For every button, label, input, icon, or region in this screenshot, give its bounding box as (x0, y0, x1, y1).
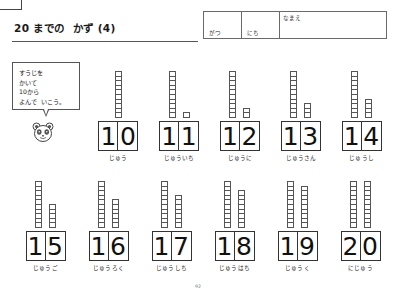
tower-group (140, 166, 203, 228)
name-field[interactable]: なまえ (280, 12, 386, 38)
numeral-digit[interactable]: 1 (279, 232, 298, 260)
tower-group (210, 56, 271, 118)
month-label: がつ (209, 29, 221, 37)
number-reading: じゅうし (349, 154, 373, 162)
number-item: 12じゅうに (210, 56, 271, 162)
block-tower (350, 182, 357, 228)
numeral-box[interactable]: 17 (152, 231, 192, 261)
numeral-digit[interactable]: 1 (153, 232, 172, 260)
numeral-digit[interactable]: 1 (179, 122, 198, 150)
number-item: 13じゅうさん (270, 56, 331, 162)
number-row-2: 15じゅうご16じゅうろく17じゅうしち18じゅうはち19じゅうく20にじゅう (14, 166, 392, 272)
tower-group (203, 166, 266, 228)
month-field[interactable]: がつ (204, 12, 242, 38)
instruction-balloon: すうじを かいて 10から よんで いこう。 (12, 62, 80, 110)
numeral-digit[interactable]: 9 (298, 232, 317, 260)
page-title: 20 までの かず (4) (14, 22, 196, 35)
block-tower (183, 113, 190, 118)
number-reading: じゅうく (285, 264, 309, 272)
unit-cube (175, 222, 182, 228)
numeral-box[interactable]: 19 (278, 231, 318, 261)
block-tower (238, 191, 245, 228)
block-tower (364, 182, 371, 228)
numeral-digit[interactable]: 1 (99, 122, 118, 150)
block-tower (169, 72, 176, 118)
panda-face-icon (31, 122, 55, 144)
numeral-box[interactable]: 20 (341, 231, 381, 261)
page-title-area: 20 までの かず (4) (14, 22, 196, 35)
instruction-text: すうじを かいて 10から よんで いこう。 (19, 68, 79, 106)
numeral-digit[interactable]: 1 (90, 232, 109, 260)
number-reading: じゅうご (33, 264, 57, 272)
numeral-box[interactable]: 11 (159, 121, 199, 151)
numeral-box[interactable]: 12 (220, 121, 260, 151)
unit-cube (243, 112, 250, 118)
block-tower (287, 182, 294, 228)
block-tower (112, 200, 119, 228)
numeral-digit[interactable]: 1 (343, 122, 362, 150)
unit-cube (224, 222, 231, 228)
name-label: なまえ (283, 14, 301, 22)
numeral-digit[interactable]: 5 (46, 232, 65, 260)
number-item: 20にじゅう (329, 166, 392, 272)
day-field[interactable]: にち (242, 12, 280, 38)
numeral-digit[interactable]: 6 (109, 232, 128, 260)
tower-group (329, 166, 392, 228)
number-item: 18じゅうはち (203, 166, 266, 272)
numeral-digit[interactable]: 2 (240, 122, 259, 150)
unit-cube (161, 222, 168, 228)
numeral-digit[interactable]: 1 (282, 122, 301, 150)
unit-cube (350, 222, 357, 228)
numeral-digit[interactable]: 2 (342, 232, 361, 260)
numeral-box[interactable]: 14 (342, 121, 382, 151)
page-number: 92 (0, 284, 396, 289)
tower-group (331, 56, 392, 118)
number-item: 14じゅうし (331, 56, 392, 162)
numeral-digit[interactable]: 1 (27, 232, 46, 260)
block-tower (365, 100, 372, 118)
numeral-digit[interactable]: 3 (301, 122, 320, 150)
tower-group (14, 166, 77, 228)
number-reading: じゅうさん (286, 154, 317, 162)
numeral-digit[interactable]: 1 (160, 122, 179, 150)
numeral-digit[interactable]: 0 (118, 122, 137, 150)
numeral-box[interactable]: 15 (26, 231, 66, 261)
number-item: 11じゅういち (149, 56, 210, 162)
block-tower (351, 72, 358, 118)
unit-cube (115, 112, 122, 118)
block-tower (229, 72, 236, 118)
unit-cube (229, 112, 236, 118)
number-reading: じゅう (109, 154, 127, 162)
number-item: 15じゅうご (14, 166, 77, 272)
block-tower (35, 182, 42, 228)
block-tower (98, 182, 105, 228)
numeral-box[interactable]: 18 (215, 231, 255, 261)
unit-cube (49, 222, 56, 228)
numeral-box[interactable]: 13 (281, 121, 321, 151)
block-tower (304, 104, 311, 118)
number-reading: じゅういち (164, 154, 195, 162)
balloon-tail (43, 110, 49, 117)
block-tower (49, 205, 56, 228)
numeral-box[interactable]: 10 (98, 121, 138, 151)
number-reading: にじゅう (348, 264, 372, 272)
number-reading: じゅうはち (219, 264, 250, 272)
unit-cube (35, 222, 42, 228)
day-label: にち (247, 29, 259, 37)
numeral-box[interactable]: 16 (89, 231, 129, 261)
number-reading: じゅうに (228, 154, 252, 162)
numeral-digit[interactable]: 7 (172, 232, 191, 260)
unit-cube (301, 222, 308, 228)
number-reading: じゅうろく (93, 264, 124, 272)
crop-registration-mark (0, 0, 22, 11)
numeral-digit[interactable]: 1 (216, 232, 235, 260)
block-tower (161, 182, 168, 228)
numeral-digit[interactable]: 0 (361, 232, 380, 260)
unit-cube (364, 222, 371, 228)
tower-group (88, 56, 149, 118)
numeral-digit[interactable]: 1 (221, 122, 240, 150)
numeral-digit[interactable]: 8 (235, 232, 254, 260)
worksheet-page: 20 までの かず (4) がつ にち なまえ すうじを かいて 10から よん… (0, 0, 396, 298)
block-tower (243, 109, 250, 118)
numeral-digit[interactable]: 4 (362, 122, 381, 150)
